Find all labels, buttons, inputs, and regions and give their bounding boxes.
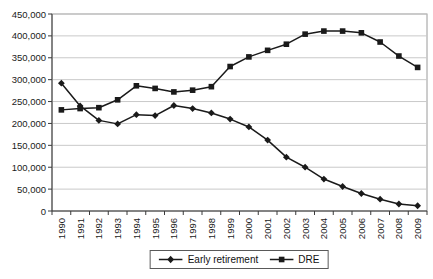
x-axis-tick-label: 1999 [225,218,236,239]
data-point-dre [227,64,233,70]
x-axis-tick-label: 2000 [243,218,254,239]
x-axis-tick-label: 1998 [206,218,217,239]
y-axis-tick-label: 300,000 [12,74,46,85]
x-axis-tick-label: 1995 [150,218,161,239]
data-point-dre [134,83,140,89]
y-axis-tick-label: 200,000 [12,118,46,129]
line-chart: 050,000100,000150,000200,000250,000300,0… [0,0,433,279]
y-axis-tick-label: 150,000 [12,140,46,151]
x-axis-tick-label: 1991 [75,218,86,239]
x-axis-tick-label: 2006 [356,218,367,239]
legend-item-early-retirement: Early retirement [159,254,259,265]
plot-border [52,14,427,211]
x-axis-tick-label: 2003 [300,218,311,239]
x-axis-tick-label: 1993 [112,218,123,239]
x-axis-tick-label: 1996 [168,218,179,239]
legend-item-dre: DRE [269,254,319,265]
data-point-dre [209,84,215,90]
y-axis-tick-label: 50,000 [17,184,46,195]
x-axis-tick-label: 1997 [187,218,198,239]
data-point-dre [59,107,65,113]
x-axis-tick-label: 2004 [318,218,329,239]
data-point-dre [77,106,83,112]
data-point-dre [152,86,158,92]
y-axis-tick-label: 0 [41,206,46,217]
data-point-dre [246,54,252,60]
data-point-dre [377,39,383,45]
x-axis-tick-label: 1990 [56,218,67,239]
diamond-marker-icon [159,255,183,264]
data-point-dre [96,105,102,111]
data-point-dre [190,87,196,93]
plot-area: 050,000100,000150,000200,000250,000300,0… [0,0,433,279]
x-axis-tick-label: 2009 [412,218,423,239]
data-point-dre [115,97,121,103]
x-axis-tick-label: 2008 [393,218,404,239]
x-axis-tick-label: 2002 [281,218,292,239]
data-point-dre [340,28,346,34]
data-point-dre [415,65,421,71]
x-axis-tick-label: 1992 [93,218,104,239]
data-point-dre [396,53,402,59]
y-axis-tick-label: 450,000 [12,9,46,20]
data-point-dre [359,30,365,36]
data-point-dre [321,28,327,34]
y-axis-tick-label: 100,000 [12,162,46,173]
data-point-dre [284,41,290,47]
y-axis-tick-label: 350,000 [12,52,46,63]
x-axis-tick-label: 1994 [131,218,142,239]
x-axis-tick-label: 2001 [262,218,273,239]
legend-label-early-retirement: Early retirement [188,254,259,265]
data-point-dre [171,89,177,95]
square-marker-icon [269,255,293,264]
legend-label-dre: DRE [298,254,319,265]
y-axis-tick-label: 400,000 [12,30,46,41]
data-point-dre [265,48,271,54]
y-axis-tick-label: 250,000 [12,96,46,107]
x-axis-tick-label: 2005 [337,218,348,239]
x-axis-tick-label: 2007 [375,218,386,239]
data-point-dre [302,31,308,37]
legend: Early retirement DRE [150,250,329,269]
